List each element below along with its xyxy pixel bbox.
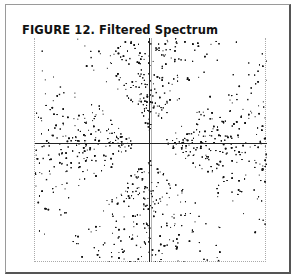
spectrum-plot [34,38,266,262]
figure-title: FIGURE 12. Filtered Spectrum [22,23,218,37]
spectrum-scatter [35,38,267,262]
